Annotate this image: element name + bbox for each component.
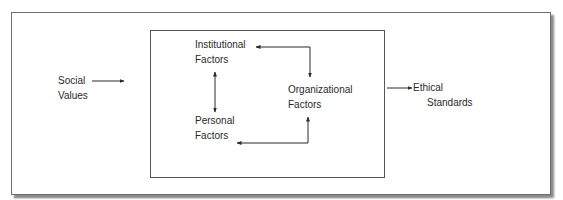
arrows-layer bbox=[0, 0, 563, 200]
arrow-institutional-organizational bbox=[256, 47, 310, 77]
arrow-personal-organizational bbox=[237, 117, 308, 143]
